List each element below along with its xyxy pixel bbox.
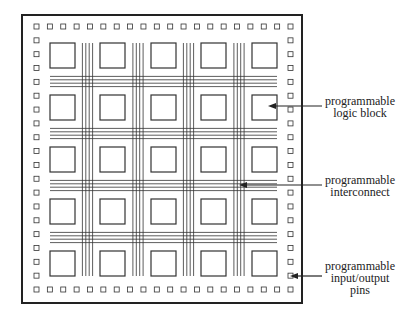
logic-block [100, 43, 125, 68]
logic-block [201, 95, 226, 120]
label-interconnect: programmable interconnect [305, 174, 414, 198]
logic-block [252, 251, 277, 276]
io-pin [87, 24, 92, 29]
logic-block [50, 95, 75, 120]
logic-block [100, 147, 125, 172]
io-pin [261, 24, 266, 29]
io-pin [34, 204, 39, 209]
io-pin [34, 93, 39, 98]
io-pin [288, 135, 293, 140]
io-pin [128, 24, 133, 29]
io-pin [61, 24, 66, 29]
io-pin [288, 259, 293, 264]
io-pin [288, 24, 293, 29]
io-pin [248, 287, 253, 292]
io-pin [34, 232, 39, 237]
io-pin [141, 24, 146, 29]
logic-block [100, 95, 125, 120]
io-pin [101, 287, 106, 292]
io-pin [288, 107, 293, 112]
io-pin [235, 287, 240, 292]
io-pin [34, 287, 39, 292]
io-pin [34, 66, 39, 71]
label-io-pins: programmable input/output pins [305, 260, 414, 296]
io-pin [34, 24, 39, 29]
logic-block [151, 251, 176, 276]
io-pin [208, 24, 213, 29]
io-pin [168, 24, 173, 29]
io-pin [288, 52, 293, 57]
logic-block [100, 199, 125, 224]
io-pin [101, 24, 106, 29]
logic-block [151, 43, 176, 68]
logic-block [50, 199, 75, 224]
logic-block [151, 199, 176, 224]
io-pin [141, 287, 146, 292]
io-pin [34, 79, 39, 84]
io-pin [288, 121, 293, 126]
logic-block [252, 43, 277, 68]
io-pin [288, 204, 293, 209]
io-pin [34, 245, 39, 250]
io-pin [61, 287, 66, 292]
io-pin [221, 287, 226, 292]
io-pin [74, 287, 79, 292]
io-pin [181, 287, 186, 292]
io-pin [288, 176, 293, 181]
logic-block [151, 147, 176, 172]
logic-block [50, 43, 75, 68]
io-pin [235, 24, 240, 29]
io-pin [34, 38, 39, 43]
logic-block [100, 251, 125, 276]
io-pin [288, 162, 293, 167]
logic-block [201, 147, 226, 172]
label-line: interconnect [305, 186, 414, 198]
io-pin [34, 52, 39, 57]
io-pin [288, 38, 293, 43]
logic-block [252, 147, 277, 172]
logic-block [252, 199, 277, 224]
io-pin [288, 93, 293, 98]
logic-block [201, 43, 226, 68]
io-pin [288, 218, 293, 223]
io-pin [288, 79, 293, 84]
io-pin [34, 259, 39, 264]
io-pin [34, 162, 39, 167]
io-pin [275, 24, 280, 29]
logic-block-grid [50, 43, 277, 276]
io-pin [288, 245, 293, 250]
io-pin [87, 287, 92, 292]
logic-block [201, 251, 226, 276]
io-pin [34, 107, 39, 112]
io-pin [34, 176, 39, 181]
label-logic-block: programmable logic block [305, 95, 414, 119]
logic-block [50, 251, 75, 276]
io-pin [34, 121, 39, 126]
io-pin [34, 218, 39, 223]
io-pin [181, 24, 186, 29]
io-pin [288, 66, 293, 71]
logic-block [201, 199, 226, 224]
io-pin [74, 24, 79, 29]
io-pin [288, 149, 293, 154]
io-pin [208, 287, 213, 292]
io-pin [288, 287, 293, 292]
io-pin [248, 24, 253, 29]
io-pin [194, 24, 199, 29]
io-pin [34, 149, 39, 154]
io-pin [114, 287, 119, 292]
label-line: logic block [305, 107, 414, 119]
logic-block [50, 147, 75, 172]
io-pin [154, 287, 159, 292]
io-pin [154, 24, 159, 29]
io-pin [288, 232, 293, 237]
io-pin [34, 273, 39, 278]
io-pin [168, 287, 173, 292]
io-pin [288, 190, 293, 195]
label-line: pins [305, 284, 414, 296]
io-pin [275, 287, 280, 292]
io-pin [194, 287, 199, 292]
io-pin [114, 24, 119, 29]
io-pin [34, 135, 39, 140]
io-pin [34, 190, 39, 195]
